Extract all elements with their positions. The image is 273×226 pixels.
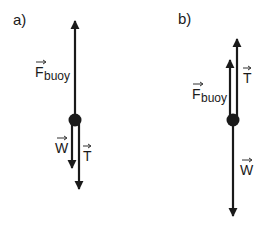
diagram-a-label: a) <box>13 11 26 28</box>
diagram-a: a) F buoy W T <box>13 11 92 189</box>
weight-label-b: W <box>240 158 254 178</box>
svg-text:T: T <box>243 70 252 86</box>
diagram-b: b) F buoy T W <box>178 10 254 216</box>
svg-text:W: W <box>240 162 254 178</box>
buoyant-force-label-a: F buoy <box>35 60 70 83</box>
diagram-b-label: b) <box>178 10 191 27</box>
weight-label-a: W <box>55 136 69 156</box>
svg-text:W: W <box>55 140 69 156</box>
svg-text:T: T <box>83 148 92 164</box>
object-dot-b <box>227 114 240 127</box>
free-body-diagrams: a) F buoy W T b) <box>0 0 273 226</box>
buoyant-force-label-b: F buoy <box>192 82 227 105</box>
svg-text:F: F <box>35 64 44 80</box>
tension-label-b: T <box>243 66 252 86</box>
object-dot-a <box>69 114 82 127</box>
tension-label-a: T <box>83 144 92 164</box>
svg-text:buoy: buoy <box>44 69 70 83</box>
svg-text:buoy: buoy <box>201 91 227 105</box>
svg-text:F: F <box>192 86 201 102</box>
